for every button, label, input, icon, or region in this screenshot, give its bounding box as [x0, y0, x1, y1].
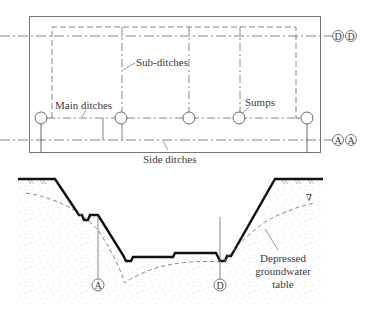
label-sub-ditches: Sub-ditches	[136, 56, 188, 68]
water-level-icon: ∇	[306, 193, 312, 203]
leader-side-ditches	[163, 141, 168, 150]
label-groundwater-3: table	[272, 278, 293, 290]
svg-text:A: A	[334, 135, 342, 146]
label-groundwater-1: Depressed	[260, 252, 306, 264]
svg-text:D: D	[334, 31, 341, 42]
sump-circle	[233, 112, 245, 124]
label-side-ditches: Side ditches	[143, 153, 196, 165]
svg-text:D: D	[216, 280, 223, 291]
site-boundary	[30, 17, 321, 153]
cross-section: ∇ A D Depressed groundwater table	[18, 179, 323, 305]
sump-circle	[115, 112, 127, 124]
leader-sub-ditches	[123, 63, 135, 70]
label-sumps: Sumps	[245, 96, 275, 108]
leader-main-ditches	[82, 110, 86, 117]
svg-text:D: D	[347, 31, 354, 42]
svg-text:A: A	[347, 135, 355, 146]
drainage-diagram: Sub-ditches Main ditches Sumps Side ditc…	[0, 0, 379, 317]
leader-sumps	[242, 107, 249, 114]
sump-circle	[301, 112, 313, 124]
label-main-ditches: Main ditches	[55, 99, 112, 111]
sump-circle	[183, 112, 195, 124]
plan-view: Sub-ditches Main ditches Sumps Side ditc…	[0, 17, 357, 166]
label-groundwater-2: groundwater	[255, 265, 311, 277]
sump-circle	[35, 112, 47, 124]
svg-text:A: A	[94, 280, 102, 291]
